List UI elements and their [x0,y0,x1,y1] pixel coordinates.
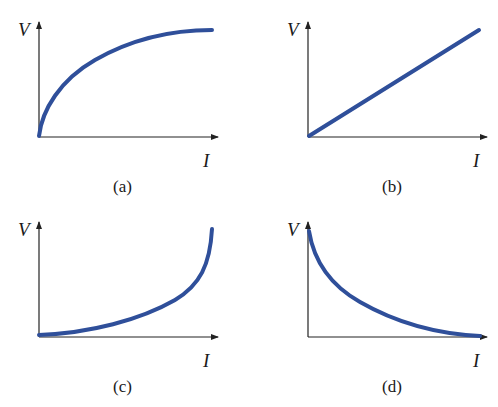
x-axis-label: I [202,350,211,371]
panel-d: V I (d) [287,219,487,396]
panel-c: V I (c) [18,219,218,396]
x-axis-label: I [472,350,481,371]
y-axis-label: V [287,219,301,240]
y-axis-label: V [18,219,32,240]
panel-caption: (c) [113,377,132,396]
x-axis-label: I [472,150,481,171]
curve-b [309,30,479,136]
curve-d [309,231,480,336]
x-axis-label: I [202,150,211,171]
curve-a [39,30,212,136]
vi-graphs-figure: V I (a) V I (b) V I (c) V I (d) [0,0,498,407]
panel-a: V I (a) [18,19,218,196]
panel-caption: (b) [382,177,402,196]
y-axis-label: V [18,19,32,40]
y-axis-label: V [287,19,301,40]
panel-caption: (a) [113,177,132,196]
panel-b: V I (b) [287,19,487,196]
panel-caption: (d) [382,377,402,396]
curve-c [39,229,212,335]
